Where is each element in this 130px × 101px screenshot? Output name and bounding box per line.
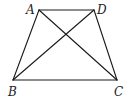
- diagonal-bd: [13, 10, 94, 80]
- edge-ab: [13, 10, 39, 80]
- vertex-label-a: A: [25, 3, 35, 17]
- trapezoid-diagram: A D B C: [0, 0, 130, 101]
- vertex-label-d: D: [96, 3, 107, 17]
- vertex-label-c: C: [114, 85, 123, 99]
- vertex-label-b: B: [7, 85, 17, 99]
